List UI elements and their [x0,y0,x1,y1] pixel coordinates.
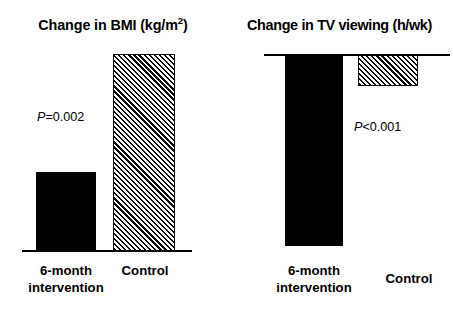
panel-title-tv-text: Change in TV viewing (h/wk) [247,17,432,33]
panel-title-tv: Change in TV viewing (h/wk) [226,17,453,34]
category-label-bmi-control: Control [110,262,180,279]
category-label-tv-intervention: 6-month intervention [256,262,372,296]
bar-tv-intervention [285,55,343,246]
bar-bmi-control [113,54,175,251]
bar-bmi-intervention [36,172,96,251]
pvalue-label-bmi: P=0.002 [37,110,84,124]
category-label-bmi-intervention-line1: 6-month [40,263,92,278]
panel-title-bmi-tail: ) [183,17,188,33]
category-label-tv-control: Control [374,270,444,287]
category-label-tv-intervention-line2: intervention [256,279,372,296]
pvalue-value-tv: <0.001 [362,120,401,134]
pvalue-label-tv: P<0.001 [354,120,401,134]
bar-tv-control [358,55,418,86]
panel-change-in-tv-viewing: Change in TV viewing (h/wk) P<0.001 6-mo… [226,0,453,316]
panel-change-in-bmi: Change in BMI (kg/m2) P=0.002 6-month in… [0,0,226,316]
pvalue-value-bmi: =0.002 [45,110,84,124]
category-label-bmi-intervention: 6-month intervention [8,262,124,296]
panel-title-bmi-text: Change in BMI (kg/m [38,17,177,33]
category-label-tv-intervention-line1: 6-month [288,263,340,278]
figure-root: Change in BMI (kg/m2) P=0.002 6-month in… [0,0,453,316]
category-label-bmi-intervention-line2: intervention [8,279,124,296]
panel-title-bmi: Change in BMI (kg/m2) [0,17,226,34]
